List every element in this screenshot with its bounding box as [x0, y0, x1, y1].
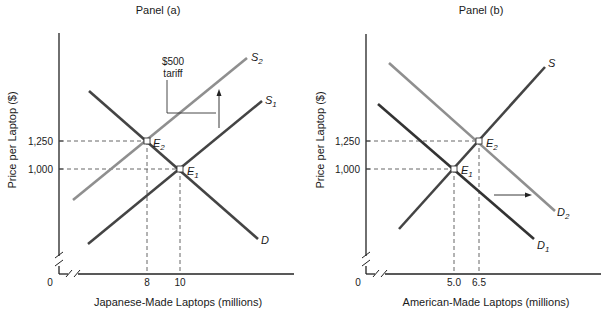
panel-a: Panel (a) Price per Laptop ($) 1,250 1,0…: [6, 4, 294, 308]
panel-b-e2-marker: [476, 138, 482, 144]
panel-a-tariff-label-1: $500: [162, 56, 185, 67]
panel-a-x-tick-8: 8: [144, 277, 150, 288]
panel-a-y-tick-1000: 1,000: [28, 164, 53, 175]
panel-b-y-tick-1000: 1,000: [335, 164, 360, 175]
panel-a-supply-s2-curve: [73, 58, 247, 200]
panel-a-e1-marker: [177, 166, 183, 172]
figure: Panel (a) Price per Laptop ($) 1,250 1,0…: [0, 0, 603, 320]
panel-a-tariff-label-2: tariff: [163, 68, 182, 79]
panel-a-label-s2: S2: [251, 51, 263, 66]
panel-a-y-tick-1250: 1,250: [28, 136, 53, 147]
panel-b-label-d2: D2: [557, 206, 570, 221]
panel-a-y-break-icon: [55, 260, 63, 266]
panel-a-x-tick-10: 10: [174, 277, 186, 288]
panel-a-x-axis-label: Japanese-Made Laptops (millions): [94, 296, 262, 308]
panel-a-tariff-bracket: [167, 80, 216, 113]
panel-b-arrowhead-icon: [525, 193, 532, 198]
panel-a-label-s1: S1: [265, 94, 277, 109]
panel-b-y-axis-label: Price per Laptop ($): [314, 91, 326, 188]
panel-b-title: Panel (b): [459, 4, 504, 16]
panel-b: Panel (b) Price per Laptop ($) 1,250 1,0…: [314, 4, 601, 308]
panel-b-label-s: S: [548, 57, 556, 69]
panel-a-arrowhead-icon: [217, 89, 222, 96]
panel-b-e1-marker: [451, 166, 457, 172]
panel-b-x-tick-5: 5.0: [447, 277, 461, 288]
panel-a-e2-marker: [144, 138, 150, 144]
panel-b-y-break-icon: [362, 260, 370, 266]
panel-b-label-d1: D1: [537, 239, 549, 254]
panel-a-title: Panel (a): [136, 4, 181, 16]
panel-b-y-tick-1250: 1,250: [335, 136, 360, 147]
panel-a-supply-s1-curve: [88, 101, 262, 244]
panel-b-x-tick-0: 0: [355, 277, 361, 288]
panel-a-y-axis-label: Price per Laptop ($): [6, 91, 18, 188]
panel-a-x-tick-0: 0: [47, 277, 53, 288]
panel-b-x-tick-6-5: 6.5: [472, 277, 486, 288]
panel-a-label-d: D: [261, 234, 269, 246]
panel-b-x-axis-label: American-Made Laptops (millions): [403, 296, 570, 308]
